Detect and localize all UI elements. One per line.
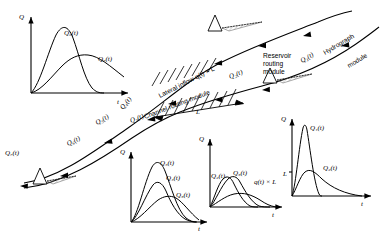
series-qtl-curve bbox=[210, 193, 276, 207]
series-label-q7: Q₇(t) bbox=[98, 55, 113, 63]
length-label-L: L bbox=[195, 108, 200, 116]
chart-bottom-3-xlabel: t bbox=[361, 200, 364, 208]
diagram-canvas: Q₇(t) Q₆(t) Q₅(t) Q₄(t) Q₃(t) Q₂(t) Q₁(t… bbox=[0, 0, 381, 232]
hydrograph-module-label-line2: module bbox=[346, 52, 368, 69]
chart-bottom-1: Q t Q₅(t) Q₄(t) Q₃(t) bbox=[120, 148, 207, 232]
series-label-q4: Q₄(t) bbox=[166, 174, 181, 182]
series-q2-curve-r bbox=[292, 170, 362, 196]
series-label-q3: Q₃(t) bbox=[176, 191, 191, 199]
series-label-q6: Q₆(t) bbox=[64, 29, 79, 37]
reservoir-routing-module-label-line2: routing bbox=[263, 60, 283, 68]
reservoir-symbol-lower-left bbox=[33, 168, 76, 184]
series-label-q5: Q₅(t) bbox=[160, 159, 175, 167]
chart-axes bbox=[289, 119, 371, 196]
series-label-q1-r: Q₁(t) bbox=[310, 124, 325, 132]
series-q6-curve bbox=[31, 27, 104, 93]
series-label-qtl: q(t) × L bbox=[254, 178, 276, 186]
chart-bottom-2-ylabel: Q bbox=[199, 135, 204, 143]
chart-bottom-2: Q t Q₂(t) Q₃(t) q(t) × L bbox=[199, 135, 282, 219]
flow-routing-diagram: Q₇(t) Q₆(t) Q₅(t) Q₄(t) Q₃(t) Q₂(t) Q₁(t… bbox=[0, 0, 381, 232]
channel-label-q7: Q₇(t) bbox=[5, 149, 20, 157]
reservoir-symbol-upper-middle bbox=[208, 15, 262, 31]
channel-label-q5: Q₅(t) bbox=[94, 112, 111, 126]
series-q1-curve-r bbox=[292, 125, 322, 196]
series-q3-curve bbox=[131, 196, 199, 222]
chart-bottom-3-ytick: L bbox=[282, 170, 287, 178]
chart-bottom-1-ylabel: Q bbox=[120, 148, 125, 156]
series-label-q2-b: Q₂(t) bbox=[211, 172, 226, 180]
chart-bottom-1-xlabel: t bbox=[198, 225, 201, 232]
chart-bottom-2-xlabel: t bbox=[272, 211, 275, 219]
series-label-q3-b: Q₃(t) bbox=[233, 169, 248, 177]
hydrograph-module-label-line1: Hydrograph bbox=[322, 32, 356, 57]
reservoir-routing-module-label-line3: module bbox=[263, 68, 285, 75]
channel-label-q2: Q₂(t) bbox=[228, 68, 245, 81]
chart-bottom-3: Q L t Q₁(t) Q₂(t) bbox=[281, 115, 371, 208]
channel-label-q4: Q₄(t) bbox=[118, 95, 133, 112]
reservoir-routing-module-label-line1: Reservoir bbox=[263, 52, 292, 59]
chart-upper-left-ylabel: Q bbox=[19, 13, 24, 21]
chart-upper-left: Q t Q₆(t) Q₇(t) bbox=[19, 13, 128, 106]
chart-bottom-3-ylabel: Q bbox=[281, 115, 286, 123]
series-label-q2-r: Q₂(t) bbox=[323, 164, 338, 172]
channel-label-q1: Q₁(t) bbox=[299, 50, 316, 64]
channel-label-q6: Q₆(t) bbox=[65, 134, 82, 148]
river-channel bbox=[24, 11, 379, 188]
